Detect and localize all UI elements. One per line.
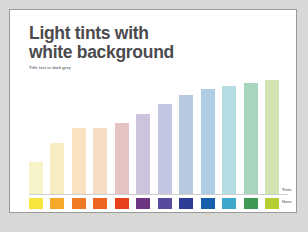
bar	[136, 114, 150, 194]
bar	[93, 128, 107, 194]
page-title: Light tints with white background	[29, 24, 259, 61]
hue-swatch	[222, 198, 236, 209]
hue-swatch	[179, 198, 193, 209]
bar	[115, 123, 129, 194]
bar	[50, 143, 64, 194]
legend-label-hues: Hues	[282, 200, 292, 204]
hue-swatch	[72, 198, 86, 209]
hue-swatch	[244, 198, 258, 209]
hue-swatch	[201, 198, 215, 209]
bar	[244, 83, 258, 194]
bar	[72, 128, 86, 194]
bar	[265, 80, 279, 194]
bar	[29, 162, 43, 194]
hue-swatch	[93, 198, 107, 209]
bar	[201, 89, 215, 194]
hue-swatch	[115, 198, 129, 209]
hue-swatch	[136, 198, 150, 209]
bar	[158, 104, 172, 194]
chart-baseline	[29, 194, 288, 195]
slide-frame: Light tints with white background Title …	[9, 9, 297, 213]
bar-chart	[29, 80, 279, 194]
bar	[179, 95, 193, 194]
hue-swatch	[265, 198, 279, 209]
slide-subtitle: Title text in dark grey	[29, 65, 259, 70]
heading-block: Light tints with white background Title …	[29, 24, 259, 70]
hue-swatch	[158, 198, 172, 209]
bar	[222, 86, 236, 194]
hue-swatch	[29, 198, 43, 209]
hue-swatch-strip	[29, 198, 279, 209]
hue-swatch	[50, 198, 64, 209]
legend-label-tints: Tints	[282, 188, 292, 192]
